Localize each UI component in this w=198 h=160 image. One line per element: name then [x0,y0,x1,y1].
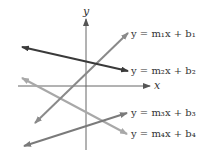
line-2 [22,47,128,71]
line-4-label: y = m₄x + b₄ [131,129,196,139]
line-1-label: y = m₁x + b₁ [131,29,196,39]
x-axis-label: x [154,80,160,91]
y-axis-label: y [83,6,89,17]
line-2-label: y = m₂x + b₂ [131,66,196,76]
line-3-label: y = m₃x + b₃ [131,108,196,118]
